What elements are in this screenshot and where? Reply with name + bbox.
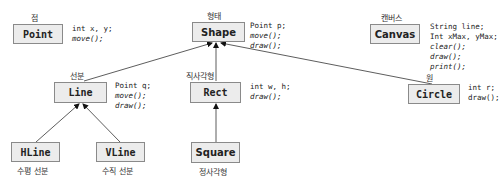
- field: int w, h;: [250, 82, 291, 92]
- field: int r;: [468, 83, 500, 93]
- method: print();: [430, 62, 498, 72]
- class-box-vline[interactable]: VLine: [96, 142, 145, 162]
- method: move();: [72, 34, 113, 44]
- class-box-line[interactable]: Line: [54, 82, 107, 103]
- class-name: Circle: [416, 89, 452, 100]
- method: move();: [115, 91, 151, 101]
- class-name: HLine: [20, 147, 50, 158]
- class-box-circle[interactable]: Circle: [408, 84, 460, 104]
- class-box-point[interactable]: Point: [13, 24, 63, 44]
- class-name: Square: [196, 147, 236, 158]
- shape-members: Point p; move(); draw();: [250, 21, 286, 51]
- class-box-square[interactable]: Square: [191, 142, 240, 163]
- class-name: Rect: [203, 87, 227, 98]
- line-korean-label: 선분: [70, 70, 84, 81]
- rect-korean-label: 직사각형: [186, 70, 214, 81]
- shape-korean-label: 형태: [207, 10, 221, 21]
- class-box-hline[interactable]: HLine: [11, 142, 60, 162]
- method: draw();: [115, 101, 151, 111]
- class-box-rect[interactable]: Rect: [190, 82, 241, 103]
- square-korean-label: 정사각형: [199, 166, 227, 177]
- line-members: Point q; move(); draw();: [115, 81, 151, 111]
- field: Point p;: [250, 21, 286, 31]
- method: move();: [250, 31, 286, 41]
- edge-hline-to-line: [36, 104, 79, 142]
- circle-members: int r; draw();: [468, 83, 500, 103]
- class-box-canvas[interactable]: Canvas: [370, 24, 420, 44]
- field: int x, y;: [72, 24, 113, 34]
- field: draw();: [468, 93, 500, 103]
- hline-korean-label: 수평 선분: [17, 165, 48, 176]
- method: draw();: [250, 92, 291, 102]
- canvas-korean-label: 캔버스: [381, 12, 402, 23]
- field: Int xMax, yMax;: [430, 32, 498, 42]
- class-box-shape[interactable]: Shape: [192, 22, 245, 42]
- field: String line;: [430, 22, 498, 32]
- circle-korean-label: 원: [426, 72, 433, 83]
- canvas-members: String line; Int xMax, yMax; clear(); dr…: [430, 22, 498, 72]
- point-korean-label: 점: [31, 12, 38, 23]
- class-name: Canvas: [375, 29, 415, 40]
- method: clear();: [430, 42, 498, 52]
- field: Point q;: [115, 81, 151, 91]
- method: draw();: [430, 52, 498, 62]
- vline-korean-label: 수직 선분: [102, 165, 133, 176]
- class-name: Line: [68, 87, 92, 98]
- rect-members: int w, h; draw();: [250, 82, 291, 102]
- point-members: int x, y; move();: [72, 24, 113, 44]
- method: draw();: [250, 41, 286, 51]
- class-name: Point: [23, 29, 53, 40]
- class-name: Shape: [201, 27, 236, 38]
- class-name: VLine: [105, 147, 135, 158]
